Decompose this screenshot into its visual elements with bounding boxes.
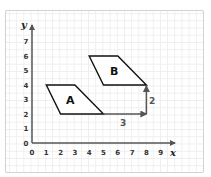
- x-tick: 7: [130, 149, 135, 157]
- x-tick: 3: [72, 149, 77, 157]
- x-tick-labels: 0 1 2 3 4 5 6 7 8 9: [30, 149, 164, 157]
- x-tick: 2: [58, 149, 63, 157]
- parallelogram-b-label: B: [110, 65, 118, 78]
- x-tick: 1: [44, 149, 49, 157]
- y-tick: 2: [24, 111, 29, 119]
- y-axis-label: y: [20, 19, 28, 30]
- y-tick: 3: [24, 96, 29, 104]
- x-tick: 6: [115, 149, 120, 157]
- parallelogram-a-label: A: [66, 94, 75, 107]
- y-tick: 6: [24, 53, 29, 61]
- x-tick: 0: [30, 149, 35, 157]
- parallelogram-a: [46, 85, 103, 114]
- x-axis-label: x: [169, 147, 177, 158]
- x-tick: 9: [158, 149, 163, 157]
- x-tick: 4: [87, 149, 92, 157]
- x-tick: 5: [101, 149, 106, 157]
- y-tick-labels: 0 1 2 3 4 5 6 7: [24, 38, 29, 148]
- y-tick: 1: [24, 125, 29, 133]
- coordinate-plane: y x 0 1 2 3 4 5 6 7 8 9 0 1 2 3 4 5 6 7 …: [0, 0, 211, 177]
- y-tick: 7: [24, 38, 29, 46]
- y-tick: 4: [24, 82, 29, 90]
- horizontal-translation-label: 3: [120, 118, 126, 128]
- vertical-translation-label: 2: [149, 96, 155, 106]
- y-tick: 5: [24, 67, 29, 75]
- y-tick: 0: [24, 140, 29, 148]
- x-tick: 8: [144, 149, 149, 157]
